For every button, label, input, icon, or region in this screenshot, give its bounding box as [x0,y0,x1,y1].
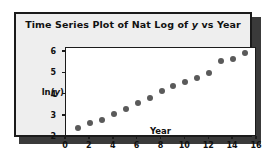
data-point [218,58,224,64]
data-point [123,106,129,112]
data-point [182,79,188,85]
x-tick-label: 6 [134,141,140,150]
chart-card: Time Series Plot of Nat Log of y vs Year… [14,12,252,137]
x-tick-mark [64,136,66,139]
x-tick-label: 8 [158,141,164,150]
data-point [206,70,212,76]
y-tick-label: 4 [50,89,56,98]
chart-title-text-after: vs Year [198,19,241,30]
x-tick-mark [112,136,114,139]
y-tick-label: 5 [50,68,56,77]
plot-area [65,47,256,136]
x-tick-mark [208,136,210,139]
x-tick-mark [88,136,90,139]
y-tick-label: 2 [50,132,56,141]
data-point [170,83,176,89]
x-tick-label: 14 [227,141,238,150]
y-tick-label: 3 [50,110,56,119]
data-point [135,100,141,106]
data-point [194,75,200,81]
data-point [159,88,165,94]
data-point [242,50,248,56]
x-tick-mark [160,136,162,139]
figure-stage: Time Series Plot of Nat Log of y vs Year… [0,0,265,160]
y-axis-label-area: ln(y) [30,47,64,136]
x-tick-label: 4 [110,141,116,150]
x-tick-label: 10 [179,141,190,150]
x-tick-label: 16 [250,141,261,150]
x-tick-label: 12 [203,141,214,150]
x-tick-label: 2 [86,141,92,150]
chart-title: Time Series Plot of Nat Log of y vs Year [16,19,250,30]
y-axis-label: ln(y) [30,87,64,97]
data-points-layer [66,48,255,135]
x-tick-label: 0 [62,141,68,150]
x-tick-mark [184,136,186,139]
x-tick-mark [255,136,257,139]
data-point [230,56,236,62]
data-point [147,95,153,101]
data-point [99,117,105,123]
x-tick-mark [231,136,233,139]
data-point [111,111,117,117]
chart-title-text-before: Time Series Plot of Nat Log of [25,19,192,30]
y-axis-label-after: ) [60,87,64,97]
x-tick-mark [136,136,138,139]
x-axis-label: Year [65,126,256,136]
y-tick-label: 6 [50,47,56,56]
